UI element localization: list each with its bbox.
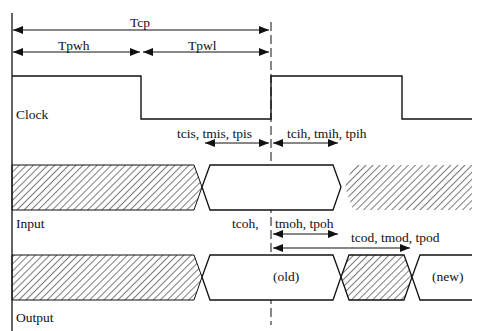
clock-signal-label: Clock bbox=[16, 108, 48, 122]
input-valid-region bbox=[202, 165, 341, 210]
output-new-label: (new) bbox=[432, 270, 463, 284]
input-setup-label: tcis, tmis, tpis bbox=[177, 127, 252, 141]
output-hold-prefix-label: tcoh, bbox=[232, 217, 259, 231]
output-old-label: (old) bbox=[273, 270, 299, 284]
timing-diagram: Tcp Tpwh Tpwl Clock tcis, tmis, tpis tci… bbox=[0, 0, 480, 331]
clock-waveform bbox=[12, 76, 472, 119]
tcp-label: Tcp bbox=[130, 16, 150, 30]
output-transition-region bbox=[341, 255, 412, 300]
tpwl-label: Tpwl bbox=[188, 39, 217, 53]
output-delay-label: tcod, tmod, tpod bbox=[351, 231, 440, 245]
output-old-region bbox=[202, 255, 341, 300]
input-invalid-region-2 bbox=[345, 165, 472, 210]
input-signal-label: Input bbox=[16, 217, 45, 231]
output-invalid-region-1 bbox=[12, 255, 202, 300]
input-hold-label: tcih, tmih, tpih bbox=[287, 127, 367, 141]
output-signal-label: Output bbox=[16, 311, 54, 325]
input-invalid-region-1 bbox=[12, 165, 202, 210]
output-hold-label: tmoh, tpoh bbox=[275, 217, 334, 231]
tpwh-label: Tpwh bbox=[58, 39, 90, 53]
